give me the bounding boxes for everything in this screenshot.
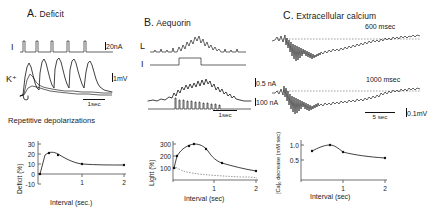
ytick-30: 30 <box>28 141 36 148</box>
panel-b-stimulus-pulses <box>148 96 253 112</box>
panel-c-annotation-1000msec: 1000 msec <box>366 76 400 83</box>
ytick-neg10: -10 <box>25 181 35 188</box>
panel-a-scalebar-20na: 20nA <box>105 42 122 50</box>
ytick-100: 100 <box>160 165 171 172</box>
xtick-1: 1 <box>80 179 84 186</box>
panel-a-title-text: Deficit <box>40 9 64 19</box>
ytick-10: 1.0 <box>290 142 299 149</box>
ytick-300: 300 <box>160 141 171 148</box>
chart-calcium-plot: 1.0 0.5 1 2 <box>272 136 397 198</box>
chart-deficit-markers <box>39 152 125 175</box>
ytick-200: 200 <box>160 153 171 160</box>
chart-deficit-plot: 30 20 10 0 -10 1 2 <box>14 138 136 200</box>
panel-a-letter: A. <box>27 7 37 19</box>
chart-deficit-ylabel: Deficit (%) <box>16 164 23 194</box>
panel-b-scalebar-1sec: 1sec <box>213 110 237 118</box>
panel-a-trace-label-k: K⁺ <box>6 74 17 84</box>
xtick-1: 1 <box>341 185 345 192</box>
panel-c-title-text: Extracellular calcium <box>296 11 376 21</box>
panel-c-scalebar-01mv: 0.1mV <box>406 108 427 117</box>
panel-b-title: B. Aequorin <box>144 16 191 28</box>
panel-a-trace-label-i: I <box>11 42 14 52</box>
panel-b-letter: B. <box>144 16 154 28</box>
ytick-05: 0.5 <box>290 157 299 164</box>
ytick-0: 0 <box>31 171 35 178</box>
figure-root: A. Deficit I K⁺ 20nA 1mV 1sec Repetitive… <box>0 0 432 212</box>
chart-calcium-xlabel: Interval (sec) <box>310 193 397 200</box>
panel-b-title-text: Aequorin <box>156 18 191 28</box>
panel-c-scalebar-5sec: 5 sec <box>365 112 395 120</box>
panel-a-title: A. Deficit <box>27 7 64 19</box>
panel-c-title: C. Extracellular calcium <box>283 9 376 21</box>
chart-light-ylabel: Light (%) <box>148 160 155 186</box>
chart-calcium-ylabel: [Ca]₀ decrease (mM sec) <box>275 132 281 194</box>
panel-a-scalebar-1sec: 1sec <box>83 99 105 107</box>
panel-b-light-trace <box>150 34 248 56</box>
chart-light: Light (%) 300 200 100 1 2 <box>146 138 268 202</box>
ytick-20: 20 <box>28 151 36 158</box>
panel-b-current-step-trace <box>150 55 248 69</box>
panel-c-letter: C. <box>283 9 294 21</box>
xtick-1: 1 <box>212 185 216 192</box>
panel-c-trace-600msec <box>272 32 424 64</box>
ytick-10: 10 <box>28 161 36 168</box>
chart-calcium: [Ca]₀ decrease (mM sec) 1.0 0.5 1 2 Inte… <box>272 136 397 200</box>
panel-b-trace-label-i: I <box>141 59 144 69</box>
panel-c-trace-1000msec <box>272 84 424 116</box>
panel-a-scalebar-1mv: 1mV <box>112 73 127 82</box>
chart-deficit-xlabel: Interval (sec.) <box>50 199 136 206</box>
panel-a-potassium-traces <box>20 55 115 100</box>
chart-deficit: Deficit (%) 30 20 10 0 -10 1 2 <box>14 138 136 206</box>
panel-a-caption: Repetitive depolarizations <box>8 116 95 125</box>
panel-c-annotation-600msec: 600 msec <box>365 23 395 30</box>
xtick-2: 2 <box>122 179 126 186</box>
xtick-2: 2 <box>383 185 387 192</box>
xtick-2: 2 <box>254 185 258 192</box>
panel-b-trace-label-l: L <box>140 41 145 51</box>
chart-light-plot: 300 200 100 1 2 <box>146 138 268 200</box>
chart-light-xlabel: Interval (sec) <box>184 195 268 202</box>
